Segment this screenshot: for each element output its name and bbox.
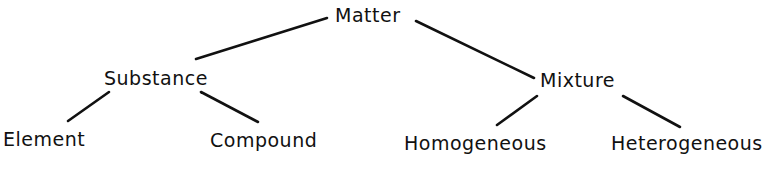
node-homogeneous: Homogeneous	[404, 134, 547, 153]
node-compound: Compound	[210, 131, 317, 150]
edge-substance-element	[68, 92, 109, 121]
edge-substance-compound	[201, 92, 258, 122]
edge-mixture-homogeneous	[497, 96, 537, 125]
node-element: Element	[3, 130, 85, 149]
edge-matter-substance	[196, 18, 327, 59]
node-matter: Matter	[335, 6, 400, 25]
node-mixture: Mixture	[540, 71, 615, 90]
matter-classification-tree: Matter Substance Mixture Element Compoun…	[0, 0, 776, 169]
edge-matter-mixture	[416, 21, 534, 78]
node-heterogeneous: Heterogeneous	[611, 134, 763, 153]
node-substance: Substance	[104, 69, 208, 88]
edge-mixture-heterogeneous	[623, 96, 680, 127]
